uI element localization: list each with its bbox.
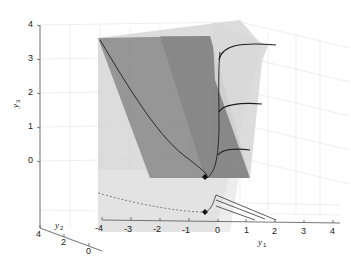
z-tick-4: 4: [28, 19, 33, 29]
y1-tick-neg3: -3: [124, 224, 132, 234]
y1-tick-4: 4: [330, 226, 335, 236]
y2-tick-4: 4: [36, 229, 41, 239]
y1-tick-2: 2: [272, 226, 277, 236]
z-tick-0: 0: [28, 155, 33, 165]
z-ticks: [37, 25, 40, 162]
y1-tick-neg2: -2: [153, 224, 161, 234]
y2-tick-0: 0: [86, 246, 91, 256]
surface-plot-3d: 4 3 2 1 0 y 3 4 2 0 y 2 -4 -3 -2 -1 0 1 …: [0, 0, 351, 256]
z-tick-1: 1: [28, 121, 33, 131]
svg-text:y: y: [54, 220, 59, 230]
z-tick-3: 3: [28, 53, 33, 63]
svg-text:1: 1: [263, 242, 267, 248]
y1-tick-0: 0: [215, 225, 220, 235]
svg-text:3: 3: [15, 99, 21, 103]
y1-tick-1: 1: [244, 225, 249, 235]
svg-text:y: y: [10, 104, 20, 109]
y2-axis-label: y 2: [54, 220, 64, 231]
y1-tick-3: 3: [301, 226, 306, 236]
z-tick-2: 2: [28, 87, 33, 97]
y2-tick-2: 2: [61, 237, 66, 247]
y1-tick-neg4: -4: [95, 223, 103, 233]
y1-axis-label: y 1: [257, 237, 267, 248]
svg-text:2: 2: [60, 225, 64, 231]
y1-tick-neg1: -1: [182, 225, 190, 235]
z-axis-label: y 3: [10, 99, 21, 109]
svg-text:y: y: [257, 237, 262, 247]
